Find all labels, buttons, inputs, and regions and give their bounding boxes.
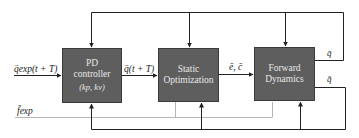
pd-controller-subtitle: controller — [74, 69, 111, 80]
forward-dynamics-block: Forward Dynamics — [254, 47, 315, 101]
block-diagram: PD controller (kp, kv) Static Optimizati… — [0, 0, 359, 138]
pd-controller-block: PD controller (kp, kv) — [62, 48, 122, 103]
forward-dynamics-line2: Dynamics — [265, 74, 304, 85]
e-c-label: ē, c̄ — [229, 62, 242, 72]
q-out-label: q̄ — [327, 48, 332, 58]
q-ddot-out-label: q̈̄ — [327, 74, 332, 84]
static-optimization-line2: Optimization — [163, 75, 213, 86]
f-exp-wire — [15, 102, 273, 118]
static-optimization-line1: Static — [178, 64, 200, 75]
pd-controller-title: PD — [86, 58, 98, 69]
pd-controller-gains: (kp, kv) — [79, 82, 104, 93]
q-exp-input-label: q̈exp(t + T) — [14, 64, 57, 74]
forward-dynamics-line1: Forward — [268, 63, 300, 74]
q-future-label: q̈(t + T) — [124, 64, 154, 74]
f-exp-label: f̄exp — [17, 106, 33, 116]
static-optimization-block: Static Optimization — [158, 48, 219, 102]
